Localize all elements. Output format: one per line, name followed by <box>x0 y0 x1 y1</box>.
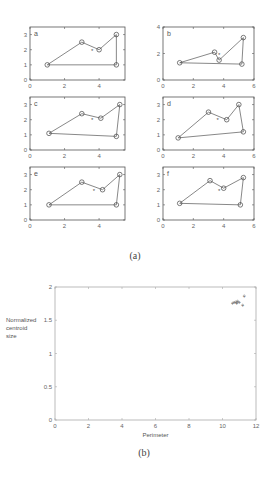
svg-text:2: 2 <box>24 47 28 53</box>
subplot-e: 0240123e* <box>24 167 125 229</box>
svg-text:2: 2 <box>24 187 28 193</box>
svg-text:*: * <box>218 188 221 194</box>
svg-text:0: 0 <box>157 147 161 153</box>
svg-text:Perimeter: Perimeter <box>142 432 168 438</box>
svg-text:0: 0 <box>24 77 28 83</box>
subplot-c: 0240123c* <box>24 97 125 159</box>
svg-text:4: 4 <box>222 153 226 159</box>
svg-text:3: 3 <box>24 32 28 38</box>
svg-text:centroid: centroid <box>6 325 27 331</box>
svg-text:2: 2 <box>192 83 196 89</box>
figure: 0240123a*0246024b*0240123c*02460123d*024… <box>0 0 270 482</box>
svg-text:a: a <box>34 30 38 37</box>
svg-text:6: 6 <box>252 83 256 89</box>
svg-text:1: 1 <box>24 132 28 138</box>
svg-text:1: 1 <box>24 62 28 68</box>
svg-text:4: 4 <box>222 223 226 229</box>
subplot-f: 02460123f* <box>157 167 257 229</box>
svg-text:2: 2 <box>49 284 53 290</box>
svg-text:1: 1 <box>157 132 161 138</box>
subplot-b: 0246024b* <box>157 24 257 89</box>
svg-text:*: * <box>93 188 96 194</box>
svg-text:size: size <box>6 333 17 339</box>
svg-text:1: 1 <box>157 202 161 208</box>
svg-text:8: 8 <box>187 423 191 429</box>
svg-text:6: 6 <box>252 153 256 159</box>
svg-text:1: 1 <box>49 351 53 357</box>
svg-text:*: * <box>216 117 219 123</box>
svg-text:6: 6 <box>154 423 158 429</box>
subplot-d: 02460123d* <box>157 97 257 159</box>
svg-text:1.5: 1.5 <box>44 317 53 323</box>
svg-text:3: 3 <box>157 172 161 178</box>
svg-text:*: * <box>218 52 221 58</box>
scatter-plot: 02468101200.511.52++++++++PerimeterNorma… <box>6 284 260 438</box>
svg-text:2: 2 <box>24 117 28 123</box>
svg-text:b: b <box>167 30 171 37</box>
svg-text:2: 2 <box>157 117 161 123</box>
svg-text:f: f <box>167 170 169 177</box>
svg-text:Normalized: Normalized <box>6 317 36 323</box>
svg-text:4: 4 <box>97 223 101 229</box>
svg-text:e: e <box>34 170 38 177</box>
subplot-a: 0240123a* <box>24 27 125 89</box>
svg-text:12: 12 <box>253 423 260 429</box>
svg-text:4: 4 <box>157 24 161 30</box>
svg-text:*: * <box>91 48 94 54</box>
svg-text:3: 3 <box>24 172 28 178</box>
svg-text:2: 2 <box>63 223 67 229</box>
svg-text:0: 0 <box>161 223 165 229</box>
svg-text:0: 0 <box>28 153 32 159</box>
svg-text:0: 0 <box>28 223 32 229</box>
svg-text:2: 2 <box>87 423 91 429</box>
svg-text:1: 1 <box>24 202 28 208</box>
svg-text:2: 2 <box>192 153 196 159</box>
svg-text:0: 0 <box>161 83 165 89</box>
svg-text:d: d <box>167 100 171 107</box>
svg-text:0: 0 <box>28 83 32 89</box>
svg-text:4: 4 <box>97 83 101 89</box>
svg-text:2: 2 <box>157 51 161 57</box>
svg-text:0: 0 <box>53 423 57 429</box>
svg-text:0: 0 <box>49 417 53 423</box>
svg-text:3: 3 <box>157 102 161 108</box>
svg-text:3: 3 <box>24 102 28 108</box>
svg-text:6: 6 <box>252 223 256 229</box>
svg-text:4: 4 <box>120 423 124 429</box>
svg-text:2: 2 <box>63 83 67 89</box>
svg-text:0: 0 <box>24 147 28 153</box>
caption-a: (a) <box>129 250 140 262</box>
svg-text:2: 2 <box>192 223 196 229</box>
svg-text:c: c <box>34 100 38 107</box>
svg-text:0: 0 <box>161 153 165 159</box>
svg-text:0: 0 <box>24 217 28 223</box>
svg-text:2: 2 <box>63 153 67 159</box>
svg-text:0: 0 <box>157 217 161 223</box>
svg-text:4: 4 <box>97 153 101 159</box>
svg-text:2: 2 <box>157 187 161 193</box>
svg-text:4: 4 <box>222 83 226 89</box>
svg-text:0.5: 0.5 <box>44 384 53 390</box>
svg-text:0: 0 <box>157 77 161 83</box>
caption-b: (b) <box>138 447 150 459</box>
svg-text:10: 10 <box>219 423 226 429</box>
svg-text:*: * <box>91 117 94 123</box>
